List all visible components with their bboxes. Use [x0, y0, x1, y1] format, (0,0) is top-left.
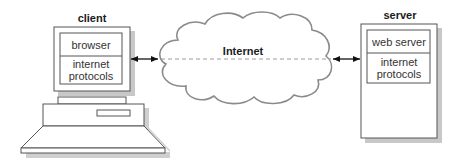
client-title: client: [78, 12, 107, 24]
client-layer-internet: internet: [73, 58, 110, 70]
server-title: server: [383, 9, 417, 21]
internet-label: Internet: [223, 45, 264, 57]
client-layer-protocols: protocols: [69, 70, 114, 82]
server-layer-protocols: protocols: [377, 68, 422, 80]
client-disk-slot: [97, 110, 130, 116]
client-layer-browser: browser: [71, 39, 110, 51]
client-server-diagram: client browser internet protocols Intern…: [0, 0, 459, 164]
client-keyboard: [21, 126, 165, 148]
internet-cloud: [160, 12, 332, 104]
server-layer-internet: internet: [381, 56, 418, 68]
client-monitor-stand: [58, 97, 126, 104]
server-layer-web-server: web server: [371, 36, 426, 48]
